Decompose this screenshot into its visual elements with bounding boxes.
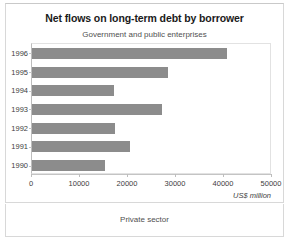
x-axis-tick-label: 50000 [261, 179, 282, 188]
chart-subtitle: Government and public enterprises [6, 30, 283, 39]
y-axis-label: 1990 [4, 161, 28, 170]
plot-area: 1996199519941993199219911990 [31, 43, 271, 174]
x-axis-tick [271, 174, 272, 177]
bar [32, 85, 114, 96]
bar-series: 1996199519941993199219911990 [32, 44, 270, 173]
page-title: Net flows on long-term debt by borrower [6, 12, 283, 24]
bar-row: 1994 [32, 81, 270, 100]
x-axis-tick [31, 174, 32, 177]
bar [32, 104, 162, 115]
bar [32, 141, 130, 152]
bar [32, 48, 227, 59]
x-axis-tick [175, 174, 176, 177]
x-axis-tick [79, 174, 80, 177]
x-axis-tick-label: 20000 [117, 179, 138, 188]
bar-row: 1992 [32, 119, 270, 138]
chart-subtitle-private-sector: Private sector [6, 215, 283, 224]
x-axis-tick-label: 30000 [165, 179, 186, 188]
bar [32, 67, 168, 78]
x-axis-tick-label: 10000 [69, 179, 90, 188]
x-axis-tick-label: 40000 [213, 179, 234, 188]
y-axis-label: 1994 [4, 86, 28, 95]
x-axis-tick [127, 174, 128, 177]
x-axis-unit-label: US$ million [233, 191, 271, 200]
y-axis-label: 1993 [4, 105, 28, 114]
y-axis-label: 1996 [4, 49, 28, 58]
chart-figure: Net flows on long-term debt by borrower … [0, 0, 288, 239]
y-axis-label: 1991 [4, 142, 28, 151]
x-axis-line [31, 174, 271, 175]
x-axis-tick [223, 174, 224, 177]
panel-private-sector: Private sector [5, 204, 284, 237]
bar-row: 1991 [32, 138, 270, 157]
x-axis-tick-label: 0 [29, 179, 33, 188]
y-axis-label: 1995 [4, 68, 28, 77]
bar-row: 1990 [32, 156, 270, 175]
panel-government-public-enterprises: Net flows on long-term debt by borrower … [5, 3, 284, 203]
bar-row: 1995 [32, 63, 270, 82]
bar-row: 1996 [32, 44, 270, 63]
bar-row: 1993 [32, 100, 270, 119]
bar [32, 160, 105, 171]
y-axis-label: 1992 [4, 124, 28, 133]
bar [32, 123, 115, 134]
